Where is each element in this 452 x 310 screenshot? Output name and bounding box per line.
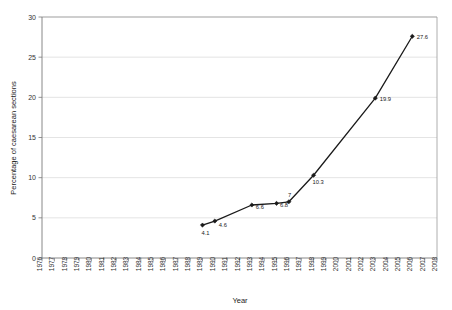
y-tick-label: 30 (28, 14, 36, 21)
data-point-label: 10.3 (313, 179, 324, 185)
x-tick-label: 1989 (196, 256, 203, 271)
y-tick-label: 10 (28, 174, 36, 181)
series-lines (202, 36, 412, 225)
x-tick-label: 1985 (147, 256, 154, 271)
y-tick-label: 5 (32, 214, 36, 221)
x-tick-label: 2008 (431, 256, 438, 271)
x-tick-label: 1984 (135, 256, 142, 271)
x-tick-label: 2001 (345, 256, 352, 271)
x-tick-label: 1986 (159, 256, 166, 271)
x-tick-label: 1978 (61, 256, 68, 271)
x-tick-label: 1998 (308, 256, 315, 271)
data-point-label: 6.8 (280, 202, 288, 208)
x-tick-label: 1993 (246, 256, 253, 271)
x-tick-label: 2006 (406, 256, 413, 271)
y-axis-title: Percentage of caesarean sections (9, 81, 18, 195)
y-tick-label: 25 (28, 54, 36, 61)
x-tick-label: 2000 (332, 256, 339, 271)
x-tick-label: 1981 (98, 256, 105, 271)
y-axis-tick-labels: 051015202530 (28, 14, 36, 262)
x-tick-label: 1977 (48, 256, 55, 271)
x-tick-label: 1994 (258, 256, 265, 271)
x-tick-label: 1983 (122, 256, 129, 271)
x-axis-tickmarks (39, 17, 438, 262)
x-tick-label: 1987 (172, 256, 179, 271)
caesarean-sections-line-chart: 051015202530 197619771978197919801981198… (0, 0, 452, 310)
x-tick-label: 1992 (234, 256, 241, 271)
x-tick-label: 1980 (85, 256, 92, 271)
series-markers (200, 34, 414, 227)
gridlines-group (42, 17, 437, 218)
x-tick-label: 1997 (295, 256, 302, 271)
x-tick-label: 2002 (357, 256, 364, 271)
x-tick-label: 1991 (221, 256, 228, 271)
data-point-label: 4.6 (219, 222, 227, 228)
x-tick-label: 1976 (36, 256, 43, 271)
x-tick-label: 1988 (184, 256, 191, 271)
x-tick-label: 1979 (73, 256, 80, 271)
x-axis-title: Year (232, 296, 248, 305)
data-point-label: 6.6 (256, 204, 264, 210)
x-tick-label: 1999 (320, 256, 327, 271)
chart-canvas: 051015202530 197619771978197919801981198… (0, 0, 452, 310)
x-axis-tick-labels: 1976197719781979198019811982198319841985… (36, 256, 438, 271)
series-point-labels: 4.14.66.66.8710.319.927.6 (201, 34, 428, 236)
series-marker (200, 223, 204, 227)
x-tick-label: 1996 (283, 256, 290, 271)
x-tick-label: 1982 (110, 256, 117, 271)
x-tick-label: 2005 (394, 256, 401, 271)
series-marker (250, 203, 254, 207)
data-point-label: 4.1 (201, 230, 209, 236)
x-tick-label: 2003 (369, 256, 376, 271)
data-point-label: 19.9 (380, 96, 391, 102)
x-tick-label: 2007 (419, 256, 426, 271)
series-line (202, 36, 412, 225)
series-marker (213, 219, 217, 223)
x-tick-label: 2004 (382, 256, 389, 271)
y-tick-label: 20 (28, 94, 36, 101)
data-point-label: 27.6 (417, 34, 428, 40)
data-point-label: 7 (288, 192, 291, 198)
x-tick-label: 1990 (209, 256, 216, 271)
x-tick-label: 1995 (271, 256, 278, 271)
y-tick-label: 15 (28, 134, 36, 141)
series-marker (274, 201, 278, 205)
